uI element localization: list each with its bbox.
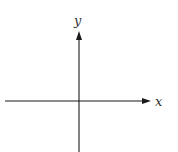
x-axis xyxy=(5,98,151,104)
y-axis-arrowhead-icon xyxy=(76,31,82,40)
y-axis-label: y xyxy=(73,13,82,28)
x-axis-label: x xyxy=(155,94,163,109)
x-axis-arrowhead-icon xyxy=(142,98,151,104)
y-axis xyxy=(76,31,82,152)
coordinate-axes: x y xyxy=(0,0,178,152)
